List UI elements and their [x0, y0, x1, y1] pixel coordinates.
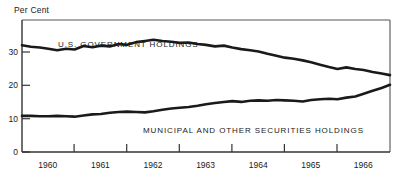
y-tick-label-10: 10 — [9, 114, 19, 124]
x-tick-label-1962: 1962 — [144, 160, 163, 170]
y-tick-label-20: 20 — [9, 80, 19, 90]
y-tick-label-30: 30 — [9, 47, 19, 57]
x-tick-label-1965: 1965 — [301, 160, 320, 170]
x-tick-label-1966: 1966 — [354, 160, 373, 170]
series-line-municipal-and-other-securities-holdings — [22, 85, 390, 117]
x-tick-label-1964: 1964 — [249, 160, 268, 170]
x-tick-label-1963: 1963 — [196, 160, 215, 170]
x-tick-label-1960: 1960 — [38, 160, 57, 170]
series-annotation-municipal-and-other-securities-holdings: MUNICIPAL AND OTHER SECURITIES HOLDINGS — [143, 126, 364, 135]
y-axis-ticks — [22, 52, 30, 152]
series-annotation-us-government-holdings: U.S. GOVERNMENT HOLDINGS — [58, 40, 199, 49]
chart-plot-area: 30 20 10 0 1960 1961 1962 1963 1964 1965… — [0, 0, 403, 178]
chart-container: Per Cent 30 20 10 0 — [0, 0, 403, 178]
y-tick-label-0: 0 — [13, 147, 18, 157]
x-axis-ticks — [74, 144, 337, 152]
x-tick-label-1961: 1961 — [91, 160, 110, 170]
